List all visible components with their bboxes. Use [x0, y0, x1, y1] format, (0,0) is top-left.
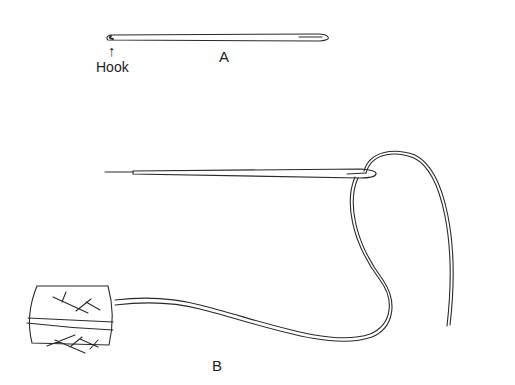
thread	[115, 151, 453, 341]
needle-diagram	[0, 0, 515, 385]
needle-b	[105, 169, 376, 178]
hook-label: Hook	[96, 60, 129, 74]
label-b: B	[212, 358, 222, 373]
needle-a	[107, 34, 328, 41]
label-a: A	[219, 49, 229, 64]
hook-arrow: ↑	[108, 43, 116, 58]
wax-block	[27, 286, 113, 353]
